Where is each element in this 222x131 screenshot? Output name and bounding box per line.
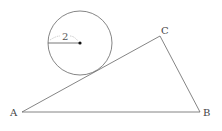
radius-label: 2 xyxy=(62,31,68,42)
geometry-diagram: 2 A B C xyxy=(0,0,222,131)
side-AC xyxy=(22,36,160,112)
center-point xyxy=(78,41,81,44)
side-CB xyxy=(160,36,200,112)
vertex-label-B: B xyxy=(203,107,210,118)
vertex-label-A: A xyxy=(9,107,18,118)
vertex-label-C: C xyxy=(161,25,169,36)
